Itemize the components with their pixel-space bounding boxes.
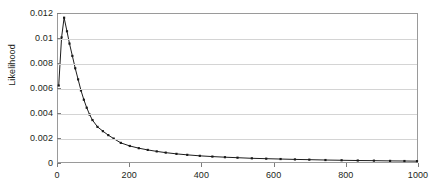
gridline xyxy=(58,139,417,140)
y-axis-tick-label: 0.006 xyxy=(30,83,53,93)
y-axis-tick-labels: 00.0020.0040.0060.0080.010.012 xyxy=(0,13,53,163)
gridline xyxy=(58,89,417,90)
data-point-marker xyxy=(96,126,98,128)
data-point-marker xyxy=(120,142,122,144)
y-axis-tick-mark xyxy=(57,138,61,139)
data-point-marker xyxy=(156,150,158,152)
data-point-marker xyxy=(224,156,226,158)
y-axis-tick-mark xyxy=(57,88,61,89)
data-point-marker xyxy=(211,155,213,157)
x-axis-tick-mark xyxy=(129,163,130,167)
data-point-marker xyxy=(91,119,93,121)
data-point-marker xyxy=(165,152,167,154)
gridline xyxy=(58,39,417,40)
y-axis-tick-label: 0.012 xyxy=(30,8,53,18)
data-point-marker xyxy=(389,160,391,162)
y-axis-tick-mark xyxy=(57,38,61,39)
x-axis-tick-label: 600 xyxy=(266,170,281,180)
gridline xyxy=(58,114,417,115)
data-point-marker xyxy=(147,149,149,151)
data-point-marker xyxy=(58,84,60,86)
x-axis-tick-mark xyxy=(274,163,275,167)
y-axis-tick-label: 0.004 xyxy=(30,108,53,118)
data-point-marker xyxy=(129,145,131,147)
x-axis-tick-mark xyxy=(418,163,419,167)
data-point-marker xyxy=(341,159,343,161)
data-point-marker xyxy=(175,153,177,155)
x-axis-tick-mark xyxy=(346,163,347,167)
likelihood-chart: Likelihood 00.0020.0040.0060.0080.010.01… xyxy=(0,0,439,195)
y-axis-tick-label: 0.01 xyxy=(35,33,53,43)
data-point-marker xyxy=(71,55,73,57)
data-point-marker xyxy=(279,158,281,160)
x-axis-tick-label: 200 xyxy=(122,170,137,180)
plot-area xyxy=(57,13,418,163)
data-point-marker xyxy=(68,43,70,45)
data-point-marker xyxy=(83,99,85,101)
y-axis-tick-mark xyxy=(57,113,61,114)
y-axis-tick-mark xyxy=(57,13,61,14)
data-point-marker xyxy=(102,130,104,132)
data-point-marker xyxy=(265,158,267,160)
data-point-marker xyxy=(403,160,405,162)
data-point-marker xyxy=(416,160,418,162)
x-axis-tick-label: 1000 xyxy=(408,170,428,180)
y-axis-tick-label: 0.002 xyxy=(30,133,53,143)
data-point-marker xyxy=(66,30,68,32)
data-point-marker xyxy=(77,78,79,80)
data-point-marker xyxy=(107,134,109,136)
data-point-marker xyxy=(199,155,201,157)
x-axis-tick-labels: 02004006008001000 xyxy=(57,163,418,193)
x-axis-tick-label: 800 xyxy=(338,170,353,180)
gridline xyxy=(58,64,417,65)
data-point-marker xyxy=(251,157,253,159)
data-point-marker xyxy=(357,159,359,161)
data-point-marker xyxy=(236,157,238,159)
data-point-marker xyxy=(324,159,326,161)
x-axis-tick-label: 400 xyxy=(194,170,209,180)
x-axis-tick-label: 0 xyxy=(54,170,59,180)
x-axis-tick-mark xyxy=(201,163,202,167)
y-axis-tick-label: 0.008 xyxy=(30,58,53,68)
y-axis-tick-label: 0 xyxy=(48,158,53,168)
data-point-marker xyxy=(373,160,375,162)
data-point-marker xyxy=(294,158,296,160)
data-point-marker xyxy=(308,159,310,161)
data-point-marker xyxy=(138,147,140,149)
y-axis-tick-mark xyxy=(57,163,61,164)
data-point-marker xyxy=(186,154,188,156)
data-point-marker xyxy=(74,67,76,69)
data-point-marker xyxy=(86,107,88,109)
data-point-marker xyxy=(63,17,65,19)
y-axis-tick-mark xyxy=(57,63,61,64)
